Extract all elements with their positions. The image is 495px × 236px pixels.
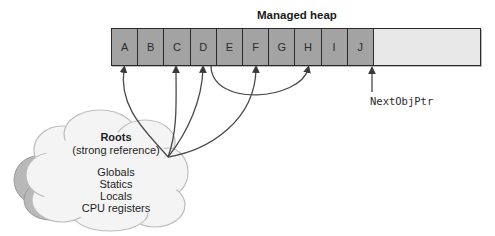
d-to-h-arrow — [211, 66, 308, 95]
roots-subtitle: (strong reference) — [56, 144, 176, 157]
root-to-f-arrow — [168, 69, 256, 157]
next-obj-ptr-label: NextObjPtr — [370, 95, 433, 107]
root-item-cpu-registers: CPU registers — [56, 202, 176, 215]
root-item-globals: Globals — [56, 166, 176, 179]
root-item-statics: Statics — [56, 178, 176, 191]
root-item-locals: Locals — [56, 190, 176, 203]
roots-title: Roots — [56, 131, 176, 144]
